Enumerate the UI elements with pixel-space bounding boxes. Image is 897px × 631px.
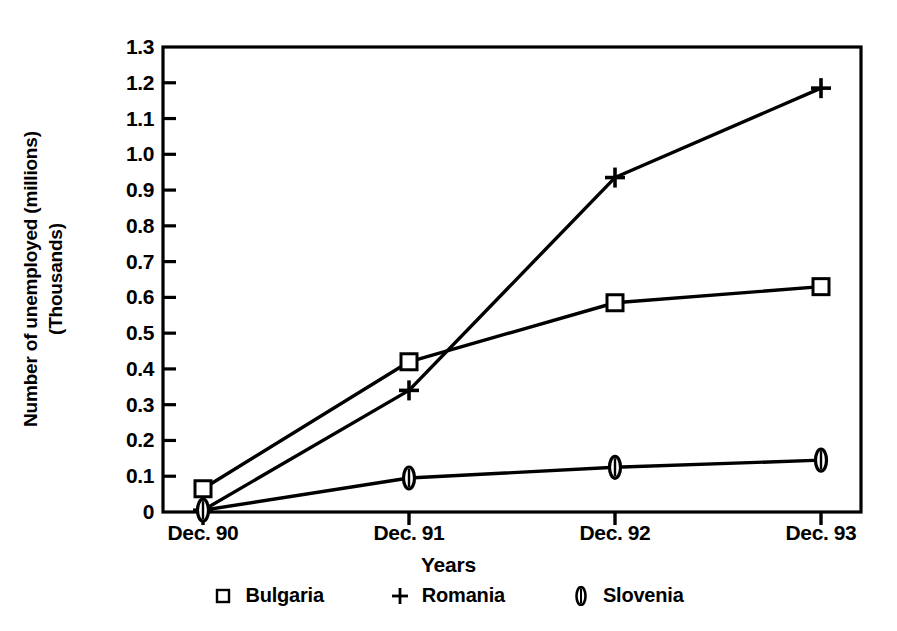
- legend-item[interactable]: Bulgaria: [213, 584, 323, 607]
- legend-label: Bulgaria: [245, 584, 323, 607]
- series-slovenia: [203, 460, 821, 510]
- chart-legend: BulgariaRomaniaSlovenia: [0, 584, 897, 607]
- legend-label: Romania: [422, 584, 505, 607]
- chart-figure: Number of unemployed (millions) (Thousan…: [0, 0, 897, 631]
- square-marker-icon: [217, 590, 229, 602]
- square-marker-icon: [813, 279, 829, 295]
- square-marker-icon: [213, 586, 233, 606]
- square-marker-icon: [607, 295, 623, 311]
- series-line: [203, 88, 821, 510]
- series-line: [203, 460, 821, 510]
- oval-marker-icon: [571, 586, 591, 606]
- series-bulgaria: [203, 287, 821, 489]
- x-tick-label: Dec. 91: [329, 521, 489, 545]
- x-axis-title: Years: [0, 553, 897, 577]
- x-tick-label: Dec. 90: [123, 521, 283, 545]
- series-romania: [203, 88, 821, 510]
- series-line: [203, 287, 821, 489]
- legend-label: Slovenia: [603, 584, 684, 607]
- legend-item[interactable]: Romania: [390, 584, 505, 607]
- square-marker-icon: [401, 354, 417, 370]
- legend-item[interactable]: Slovenia: [571, 584, 684, 607]
- x-tick-label: Dec. 92: [535, 521, 695, 545]
- x-tick-label: Dec. 93: [741, 521, 897, 545]
- plus-marker-icon: [390, 586, 410, 606]
- square-marker-icon: [195, 481, 211, 497]
- series-markers-romania: [193, 78, 831, 520]
